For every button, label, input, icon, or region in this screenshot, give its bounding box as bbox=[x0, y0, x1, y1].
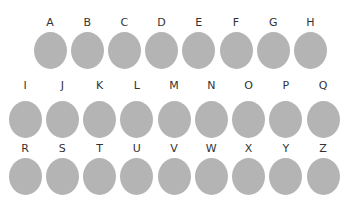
letter-circle-z[interactable] bbox=[307, 158, 340, 195]
letter-label: Z bbox=[305, 143, 341, 155]
letter-circle-j[interactable] bbox=[46, 101, 79, 138]
letter-circle-e[interactable] bbox=[182, 32, 215, 69]
letter-label: G bbox=[255, 17, 291, 29]
letter-circle-b[interactable] bbox=[71, 32, 104, 69]
letter-label: M bbox=[156, 80, 192, 92]
letter-label: L bbox=[119, 80, 155, 92]
letter-circle-w[interactable] bbox=[195, 158, 228, 195]
letter-label: F bbox=[218, 17, 254, 29]
letter-circle-f[interactable] bbox=[220, 32, 253, 69]
letter-circle-t[interactable] bbox=[83, 158, 116, 195]
letter-circle-l[interactable] bbox=[120, 101, 153, 138]
letter-label: X bbox=[231, 143, 267, 155]
letter-circle-y[interactable] bbox=[269, 158, 302, 195]
letter-circle-d[interactable] bbox=[145, 32, 178, 69]
letter-circle-p[interactable] bbox=[269, 101, 302, 138]
letter-label: T bbox=[82, 143, 118, 155]
letter-label: I bbox=[7, 80, 43, 92]
letter-circle-h[interactable] bbox=[294, 32, 327, 69]
letter-circle-i[interactable] bbox=[9, 101, 42, 138]
letter-label: C bbox=[106, 17, 142, 29]
letter-label: E bbox=[181, 17, 217, 29]
letter-label: B bbox=[69, 17, 105, 29]
letter-circle-q[interactable] bbox=[307, 101, 340, 138]
letter-label: N bbox=[193, 80, 229, 92]
letter-label: U bbox=[119, 143, 155, 155]
letter-label: D bbox=[144, 17, 180, 29]
letter-label: H bbox=[292, 17, 328, 29]
letter-circle-g[interactable] bbox=[257, 32, 290, 69]
letter-circle-o[interactable] bbox=[232, 101, 265, 138]
letter-circle-x[interactable] bbox=[232, 158, 265, 195]
letter-circle-v[interactable] bbox=[158, 158, 191, 195]
letter-label: P bbox=[268, 80, 304, 92]
letter-label: S bbox=[44, 143, 80, 155]
letter-label: K bbox=[82, 80, 118, 92]
letter-label: V bbox=[156, 143, 192, 155]
letter-label: Q bbox=[305, 80, 341, 92]
letter-circle-a[interactable] bbox=[34, 32, 67, 69]
letter-label: O bbox=[231, 80, 267, 92]
letter-circle-n[interactable] bbox=[195, 101, 228, 138]
letter-label: W bbox=[193, 143, 229, 155]
letter-circle-s[interactable] bbox=[46, 158, 79, 195]
letter-circle-k[interactable] bbox=[83, 101, 116, 138]
letter-circle-u[interactable] bbox=[120, 158, 153, 195]
letter-circle-r[interactable] bbox=[9, 158, 42, 195]
letter-circle-c[interactable] bbox=[108, 32, 141, 69]
letter-label: R bbox=[7, 143, 43, 155]
letter-label: A bbox=[32, 17, 68, 29]
letter-label: J bbox=[44, 80, 80, 92]
letter-label: Y bbox=[268, 143, 304, 155]
letter-circle-m[interactable] bbox=[158, 101, 191, 138]
